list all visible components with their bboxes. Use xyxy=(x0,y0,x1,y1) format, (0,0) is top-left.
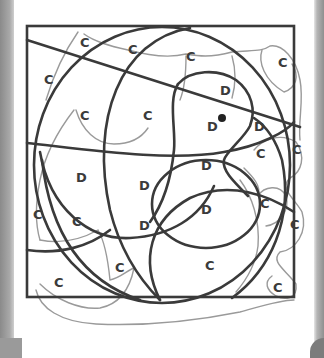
region-label: D xyxy=(139,218,150,233)
region-label: C xyxy=(72,214,82,229)
region-label: C xyxy=(186,49,196,64)
region-label: C xyxy=(292,142,302,157)
region-label: C xyxy=(54,275,64,290)
region-label: C xyxy=(80,108,90,123)
region-label: C xyxy=(278,55,288,70)
region-label: C xyxy=(260,196,270,211)
region-label: D xyxy=(254,119,265,134)
region-label: D xyxy=(201,158,212,173)
region-label: C xyxy=(33,207,43,222)
region-label: C xyxy=(80,35,90,50)
region-label: C xyxy=(256,146,266,161)
region-label: D xyxy=(220,83,231,98)
region-label: C xyxy=(205,258,215,273)
region-label: C xyxy=(115,260,125,275)
region-label: D xyxy=(76,170,87,185)
marker-dot xyxy=(218,114,226,122)
region-label: C xyxy=(273,280,283,295)
region-label: D xyxy=(139,178,150,193)
region-label: D xyxy=(201,202,212,217)
region-lines xyxy=(27,27,300,303)
coloring-diagram: C C C C C C C D D D C C D D D D C C D C … xyxy=(0,0,324,358)
region-labels: C C C C C C C D D D C C D D D D C C D C … xyxy=(33,35,302,295)
region-label: C xyxy=(44,72,54,87)
region-label: C xyxy=(290,217,300,232)
region-label: C xyxy=(128,42,138,57)
region-label: C xyxy=(143,108,153,123)
region-label: D xyxy=(207,119,218,134)
